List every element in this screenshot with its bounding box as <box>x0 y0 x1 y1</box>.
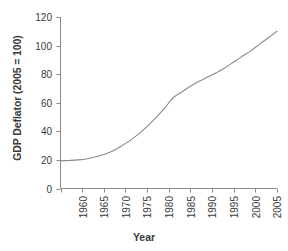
x-tick-label: 1985 <box>186 196 197 218</box>
gdp-deflator-line-chart: GDP Deflator (2005 = 100) Year 020406080… <box>0 0 288 251</box>
y-tick-label: 0 <box>22 183 52 194</box>
data-series-line <box>61 31 278 161</box>
y-tick-label: 100 <box>22 40 52 51</box>
y-tick-label: 60 <box>22 97 52 108</box>
x-tick-label: 1990 <box>208 196 219 218</box>
y-tick-marks <box>57 18 61 190</box>
x-axis-label-text: Year <box>0 231 288 243</box>
x-tick-label: 1960 <box>78 196 89 218</box>
y-tick-label: 80 <box>22 69 52 80</box>
x-tick-label: 1970 <box>121 196 132 218</box>
x-tick-label: 1980 <box>164 196 175 218</box>
x-tick-label: 1965 <box>99 196 110 218</box>
y-tick-label: 120 <box>22 12 52 23</box>
x-tick-label: 1975 <box>143 196 154 218</box>
y-tick-label: 20 <box>22 154 52 165</box>
x-tick-marks <box>62 189 278 193</box>
x-tick-label: 1995 <box>229 196 240 218</box>
x-tick-label: 2005 <box>273 196 284 218</box>
x-tick-label: 2000 <box>251 196 262 218</box>
y-tick-label: 40 <box>22 126 52 137</box>
